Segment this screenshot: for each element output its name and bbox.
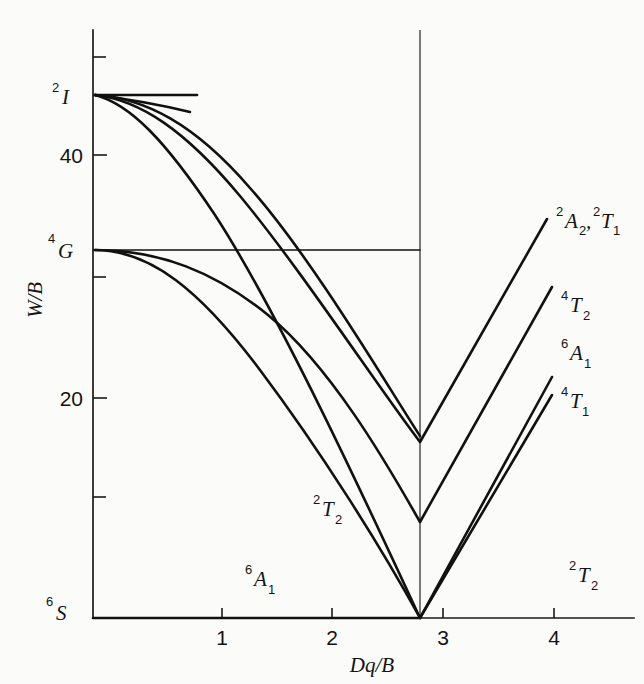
free-ion-label-6S-term: S [56, 601, 67, 625]
curve-label-2A2-2T1-main1: A [563, 209, 578, 233]
free-ion-label-4G-term: G [58, 239, 73, 263]
curve-label-2A2-2T1: 2 A 2 , 2 T 1 [556, 204, 620, 238]
y-ticks-group [93, 57, 107, 497]
y-tick-label-20: 20 [60, 387, 83, 410]
curve-label-6A1-axis-sub: 1 [268, 582, 275, 597]
curve-label-6A1-sub: 1 [584, 356, 591, 371]
curve-label-4T1-sub: 1 [582, 404, 589, 419]
curve-label-4T2: 4 T 2 [561, 288, 590, 323]
curve-label-6A1: 6 A 1 [561, 336, 591, 371]
free-ion-label-4G: 4 G [48, 231, 73, 263]
x-axis-title-text: Dq/B [349, 653, 395, 677]
curve-label-2A2-2T1-sup1: 2 [556, 204, 563, 219]
curve-label-2A2-2T1-sup2: 2 [593, 204, 600, 219]
x-tick-label-2: 2 [326, 626, 338, 649]
free-ion-label-6S-superscript: 6 [46, 594, 53, 609]
curve-label-6A1-main: A [568, 341, 583, 365]
curve-label-2T2-mid-main: T [322, 497, 335, 521]
curve-label-4T2-sup: 4 [561, 288, 568, 303]
curve-label-4T2-sub: 2 [583, 308, 590, 323]
curve-label-6A1-axis-main: A [252, 567, 267, 591]
curve-label-2T2-mid-sub: 2 [335, 512, 342, 527]
x-ticks-group [222, 608, 554, 618]
axes-group [93, 30, 634, 618]
curve-2A2-2T1-upper [95, 95, 420, 436]
tanabe-sugano-diagram: W/B Dq/B 40 20 1 2 3 4 2 I 4 G 6 S 2 A 2 [0, 0, 644, 684]
curve-4T2 [95, 250, 552, 522]
x-tick-label-3: 3 [437, 626, 449, 649]
y-axis-title: W/B [23, 282, 47, 318]
y-axis-title-text: W/B [23, 282, 47, 318]
curve-label-2A2-2T1-sub2: 1 [613, 223, 620, 238]
curve-label-2T2-axis-sup: 2 [569, 558, 576, 573]
curve-label-2T2-axis: 2 T 2 [569, 558, 598, 593]
free-ion-label-2I-superscript: 2 [52, 80, 59, 95]
x-tick-label-1: 1 [216, 626, 228, 649]
curve-label-4T1-sup: 4 [561, 384, 568, 399]
free-ion-label-2I: 2 I [52, 80, 70, 109]
free-ion-label-4G-superscript: 4 [48, 231, 55, 246]
curve-label-6A1-axis-sup: 6 [245, 562, 252, 577]
x-tick-label-4: 4 [548, 626, 560, 649]
curve-label-6A1-axis: 6 A 1 [245, 562, 275, 597]
y-tick-label-40: 40 [60, 144, 83, 167]
figure-container: W/B Dq/B 40 20 1 2 3 4 2 I 4 G 6 S 2 A 2 [0, 0, 644, 684]
curve-label-6A1-sup: 6 [561, 336, 568, 351]
curve-label-2T2-mid: 2 T 2 [313, 492, 342, 527]
free-ion-label-2I-term: I [61, 85, 70, 109]
curve-label-2T2-mid-sup: 2 [313, 492, 320, 507]
curve-label-2T2-axis-sub: 2 [591, 578, 598, 593]
free-ion-label-6S: 6 S [46, 594, 67, 625]
curve-label-4T1: 4 T 1 [561, 384, 589, 419]
curve-label-2T2-axis-main: T [578, 563, 591, 587]
curve-label-4T2-main: T [570, 293, 583, 317]
curve-label-2A2-2T1-separator: , [586, 209, 591, 233]
curve-2A2-2T1-lower [95, 95, 547, 442]
